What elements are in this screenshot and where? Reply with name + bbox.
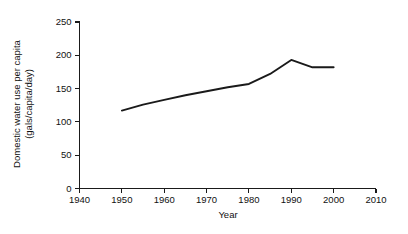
x-tick-group: 19401950196019701980199020002010 [69, 189, 387, 205]
y-tick-label: 0 [66, 183, 71, 194]
x-tick-label: 1990 [281, 194, 302, 205]
y-tick-label: 250 [56, 16, 72, 27]
x-tick-label: 1940 [69, 194, 90, 205]
y-tick-label: 50 [61, 149, 72, 160]
y-axis-title-line1: Domestic water use per capita [11, 39, 22, 167]
y-tick-label: 100 [56, 116, 72, 127]
y-tick-label: 200 [56, 49, 72, 60]
y-tick-label: 150 [56, 83, 72, 94]
x-tick-label: 1960 [154, 194, 175, 205]
y-axis-title-group: Domestic water use per capita (gals/capi… [11, 39, 34, 167]
x-tick-label: 1970 [196, 194, 217, 205]
y-axis: 050100150200250 [56, 16, 80, 194]
x-tick-label: 1950 [111, 194, 132, 205]
x-tick-label: 2000 [323, 194, 344, 205]
y-tick-group: 050100150200250 [56, 16, 80, 194]
chart-container: Domestic water use per capita (gals/capi… [0, 0, 408, 234]
x-axis: 19401950196019701980199020002010 Year [69, 189, 387, 221]
line-chart: Domestic water use per capita (gals/capi… [0, 0, 408, 234]
x-axis-title: Year [218, 209, 237, 220]
x-tick-label: 1980 [238, 194, 259, 205]
x-tick-label: 2010 [365, 194, 386, 205]
series-line-domestic-water-use [122, 60, 334, 111]
plot-area [122, 60, 334, 111]
y-axis-title-line2: (gals/capita/day) [23, 69, 34, 139]
